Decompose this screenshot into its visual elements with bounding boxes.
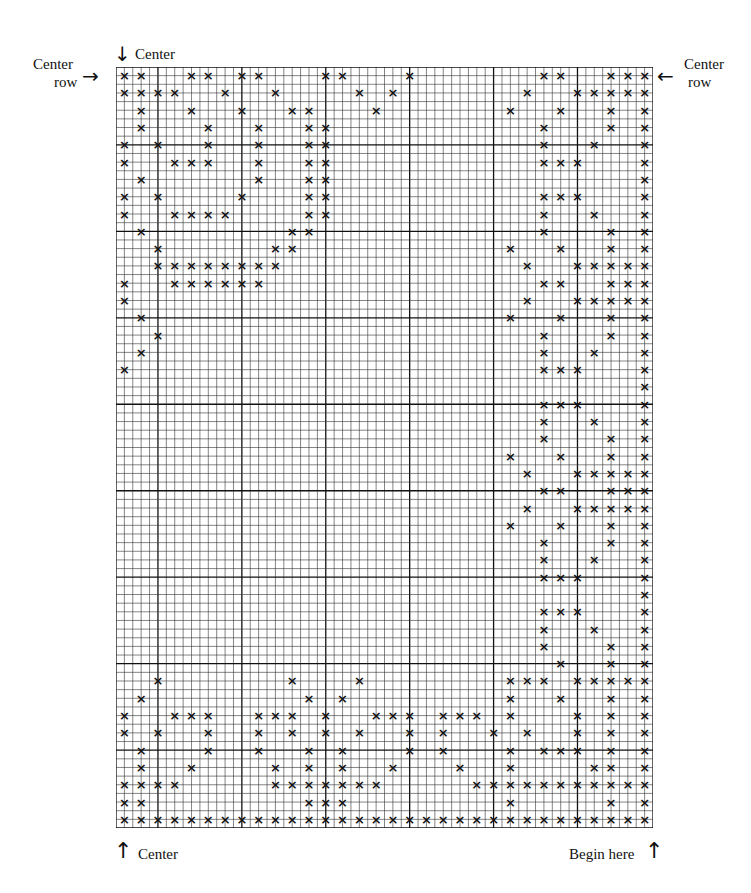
stitch-mark: × <box>603 257 620 274</box>
stitch-mark: × <box>250 171 267 188</box>
stitch-mark: × <box>166 275 183 292</box>
stitch-mark: × <box>636 655 653 672</box>
stitch-mark: × <box>233 257 250 274</box>
stitch-mark: × <box>183 102 200 119</box>
stitch-mark: × <box>334 759 351 776</box>
stitch-mark: × <box>603 672 620 689</box>
stitch-mark: × <box>468 811 485 828</box>
center-row-left-arrow-icon: ← <box>657 66 674 86</box>
stitch-mark: × <box>502 240 519 257</box>
stitch-mark: × <box>150 672 167 689</box>
stitch-mark: × <box>317 811 334 828</box>
center-column-bottom-label: Center <box>138 846 178 863</box>
stitch-mark: × <box>536 275 553 292</box>
stitch-mark: × <box>536 67 553 84</box>
stitch-mark: × <box>569 188 586 205</box>
stitch-mark: × <box>250 257 267 274</box>
stitch-mark: × <box>301 793 318 810</box>
stitch-mark: × <box>233 102 250 119</box>
stitch-mark: × <box>636 102 653 119</box>
center-row-right-label-line1: Center <box>684 56 724 73</box>
stitch-mark: × <box>200 742 217 759</box>
stitch-mark: × <box>351 811 368 828</box>
stitch-mark: × <box>636 724 653 741</box>
stitch-mark: × <box>284 223 301 240</box>
stitch-mark: × <box>586 205 603 222</box>
stitch-mark: × <box>603 707 620 724</box>
stitch-mark: × <box>116 361 133 378</box>
stitch-mark: × <box>284 672 301 689</box>
stitch-mark: × <box>317 205 334 222</box>
stitch-mark: × <box>418 811 435 828</box>
stitch-mark: × <box>133 742 150 759</box>
stitch-mark: × <box>116 724 133 741</box>
stitch-mark: × <box>133 811 150 828</box>
stitch-mark: × <box>133 344 150 361</box>
stitch-mark: × <box>586 257 603 274</box>
stitch-mark: × <box>334 776 351 793</box>
stitch-mark: × <box>619 482 636 499</box>
stitch-mark: × <box>603 638 620 655</box>
stitch-mark: × <box>636 793 653 810</box>
stitch-mark: × <box>636 413 653 430</box>
stitch-mark: × <box>586 344 603 361</box>
stitch-mark: × <box>519 776 536 793</box>
stitch-mark: × <box>502 690 519 707</box>
stitch-mark: × <box>536 482 553 499</box>
center-column-down-arrow-icon: ↓ <box>114 44 131 64</box>
stitch-mark: × <box>233 67 250 84</box>
stitch-mark: × <box>586 620 603 637</box>
stitch-mark: × <box>619 499 636 516</box>
center-row-left-label-line1: Center <box>33 56 73 73</box>
stitch-mark: × <box>569 569 586 586</box>
stitch-mark: × <box>519 257 536 274</box>
stitch-mark: × <box>502 707 519 724</box>
stitch-mark: × <box>502 309 519 326</box>
stitch-mark: × <box>536 344 553 361</box>
stitch-mark: × <box>317 776 334 793</box>
stitch-mark: × <box>267 84 284 101</box>
stitch-mark: × <box>636 776 653 793</box>
stitch-mark: × <box>536 430 553 447</box>
stitch-mark: × <box>452 707 469 724</box>
stitch-mark: × <box>569 396 586 413</box>
stitch-mark: × <box>636 482 653 499</box>
stitch-mark: × <box>603 448 620 465</box>
stitch-mark: × <box>301 136 318 153</box>
stitch-mark: × <box>284 724 301 741</box>
stitch-mark: × <box>267 257 284 274</box>
stitch-mark: × <box>636 759 653 776</box>
stitch-mark: × <box>385 707 402 724</box>
stitch-mark: × <box>334 742 351 759</box>
stitch-mark: × <box>636 205 653 222</box>
stitch-mark: × <box>301 776 318 793</box>
stitch-mark: × <box>233 811 250 828</box>
stitch-mark: × <box>536 776 553 793</box>
stitch-mark: × <box>569 742 586 759</box>
stitch-mark: × <box>536 223 553 240</box>
stitch-mark: × <box>116 707 133 724</box>
stitch-mark: × <box>217 84 234 101</box>
center-row-right-arrow-icon: → <box>82 66 99 86</box>
stitch-mark: × <box>217 275 234 292</box>
stitch-mark: × <box>536 534 553 551</box>
stitch-mark: × <box>552 361 569 378</box>
stitch-mark: × <box>636 153 653 170</box>
stitch-mark: × <box>519 811 536 828</box>
stitch-mark: × <box>536 361 553 378</box>
stitch-mark: × <box>150 84 167 101</box>
stitch-mark: × <box>334 690 351 707</box>
stitch-mark: × <box>536 188 553 205</box>
stitch-mark: × <box>116 136 133 153</box>
stitch-mark: × <box>502 102 519 119</box>
stitch-mark: × <box>351 672 368 689</box>
stitch-mark: × <box>250 119 267 136</box>
stitch-mark: × <box>586 413 603 430</box>
stitch-mark: × <box>351 724 368 741</box>
stitch-mark: × <box>603 292 620 309</box>
stitch-mark: × <box>317 119 334 136</box>
stitch-mark: × <box>133 793 150 810</box>
stitch-mark: × <box>636 430 653 447</box>
stitch-mark: × <box>536 811 553 828</box>
stitch-mark: × <box>636 361 653 378</box>
